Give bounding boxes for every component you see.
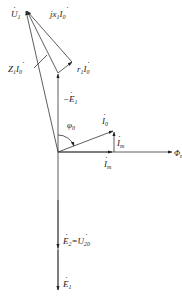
phasor-diagram: U1 · jx1I0 · Z1I0 · r1I0 · −E1 · φ0 I0 ·…: [0, 0, 182, 297]
phasor-r1I0: [58, 62, 72, 73]
svg-text:·: ·: [70, 87, 73, 97]
label-E2-eq-U20: E2=U20 · ·: [62, 229, 90, 247]
label-E1: E1 ·: [62, 272, 72, 290]
svg-text:Φm: Φm: [174, 149, 182, 159]
svg-text:·: ·: [85, 229, 88, 239]
phasor-U1: [26, 11, 58, 152]
svg-text:·: ·: [66, 2, 69, 12]
leader-Z1I0: [34, 55, 47, 68]
label-neg-E1: −E1 ·: [63, 87, 78, 105]
label-jx1I0: jx1I0 ·: [49, 2, 69, 20]
svg-text:·: ·: [65, 229, 68, 239]
svg-text:·: ·: [13, 2, 16, 12]
label-Im-vertical: Im ·: [116, 131, 125, 149]
phasor-I0: [58, 131, 113, 152]
svg-text:φ0: φ0: [67, 120, 75, 131]
label-Z1I0: Z1I0 ·: [8, 57, 25, 75]
svg-text:·: ·: [87, 57, 90, 67]
label-I0: I0 ·: [101, 109, 108, 127]
label-phi0: φ0: [67, 120, 75, 131]
svg-text:Z1I0: Z1I0: [8, 64, 22, 75]
svg-text:·: ·: [65, 272, 68, 282]
label-U1: U1 ·: [11, 2, 21, 20]
svg-text:·: ·: [118, 131, 121, 141]
svg-text:·: ·: [105, 152, 108, 162]
angle-arc-phi0: [58, 135, 74, 146]
label-Phi-m: Φm: [174, 149, 182, 159]
label-r1I0: r1I0 ·: [77, 57, 90, 75]
label-Im-horizontal: Im ·: [103, 152, 112, 170]
phasor-Z1I0: [27, 11, 58, 73]
svg-text:·: ·: [22, 57, 25, 67]
svg-text:·: ·: [103, 109, 106, 119]
svg-text:jx1I0: jx1I0: [49, 9, 66, 20]
